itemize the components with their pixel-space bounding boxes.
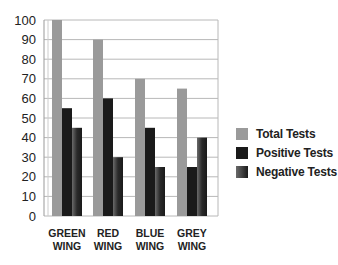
y-tick-label: 10 — [22, 189, 36, 204]
y-tick-label: 100 — [14, 13, 36, 28]
x-category-label: WING — [94, 240, 123, 252]
bar-total-tests — [93, 40, 103, 216]
bar-negative-tests — [113, 157, 123, 216]
bar-positive-tests — [62, 108, 72, 216]
swatch-negative-tests — [236, 166, 248, 178]
y-tick-label: 70 — [22, 71, 36, 86]
x-category-label: WING — [53, 240, 82, 252]
bar-total-tests — [135, 79, 145, 216]
legend-label: Positive Tests — [256, 146, 333, 160]
y-tick-label: 50 — [22, 111, 36, 126]
legend-item-total-tests: Total Tests — [236, 124, 337, 143]
x-category-label: GREY — [177, 227, 207, 239]
swatch-positive-tests — [236, 147, 248, 159]
x-category-label: WING — [136, 240, 165, 252]
swatch-total-tests — [236, 128, 248, 140]
bar-total-tests — [52, 20, 62, 216]
y-tick-label: 40 — [22, 130, 36, 145]
bar-negative-tests — [197, 138, 207, 216]
x-category-label: BLUE — [136, 227, 165, 239]
y-tick-label: 80 — [22, 52, 36, 67]
y-tick-label: 0 — [29, 209, 36, 224]
legend: Total Tests Positive Tests Negative Test… — [236, 124, 337, 181]
x-category-label: GREEN — [48, 227, 85, 239]
bar-positive-tests — [103, 98, 113, 216]
x-axis: GREENWINGREDWINGBLUEWINGGREYWING — [48, 227, 207, 252]
bar-total-tests — [177, 89, 187, 216]
legend-item-positive-tests: Positive Tests — [236, 143, 337, 162]
bar-negative-tests — [72, 128, 82, 216]
legend-label: Negative Tests — [256, 165, 337, 179]
bar-negative-tests — [155, 167, 165, 216]
x-category-label: RED — [97, 227, 120, 239]
legend-label: Total Tests — [256, 127, 315, 141]
y-tick-label: 60 — [22, 91, 36, 106]
y-tick-label: 30 — [22, 150, 36, 165]
y-tick-label: 20 — [22, 169, 36, 184]
bar-positive-tests — [187, 167, 197, 216]
legend-item-negative-tests: Negative Tests — [236, 162, 337, 181]
bar-positive-tests — [145, 128, 155, 216]
y-tick-label: 90 — [22, 32, 36, 47]
x-category-label: WING — [178, 240, 207, 252]
